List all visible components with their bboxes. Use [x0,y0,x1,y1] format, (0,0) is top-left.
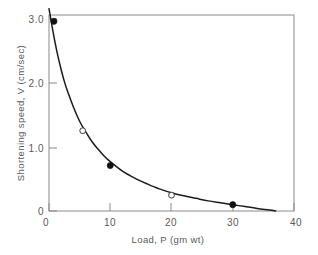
data-point-filled [107,162,113,168]
figure-container: 3.0 2.0 1.0 0 0 10 20 30 40 Load, P (gm … [0,0,318,255]
x-tick-label-30: 30 [227,217,239,228]
y-tick-label-1: 1.0 [29,143,44,154]
data-point-filled [230,202,236,208]
plot-frame [49,15,294,211]
y-tick-label-2: 2.0 [29,78,44,89]
data-curve [49,9,276,211]
x-axis-title: Load, P (gm wt) [132,234,205,245]
x-tick-label-40: 40 [290,217,302,228]
y-tick-label-3: 3.0 [29,14,44,25]
data-point-open [169,192,175,198]
x-tick-label-20: 20 [165,217,177,228]
y-tick-labels: 3.0 2.0 1.0 0 [29,14,44,217]
x-tick-label-10: 10 [104,217,116,228]
data-point-open [80,128,86,134]
y-tick-label-0: 0 [38,206,44,217]
data-point-filled [51,18,57,24]
x-tick-labels: 0 10 20 30 40 [43,217,302,228]
x-axis-ticks [49,203,294,211]
y-axis-title: Shortening speed, V (cm/sec) [15,45,26,181]
force-velocity-chart: 3.0 2.0 1.0 0 0 10 20 30 40 Load, P (gm … [0,0,318,255]
x-tick-label-0: 0 [43,217,49,228]
data-point-markers [51,18,236,208]
axis-frame [49,15,294,211]
